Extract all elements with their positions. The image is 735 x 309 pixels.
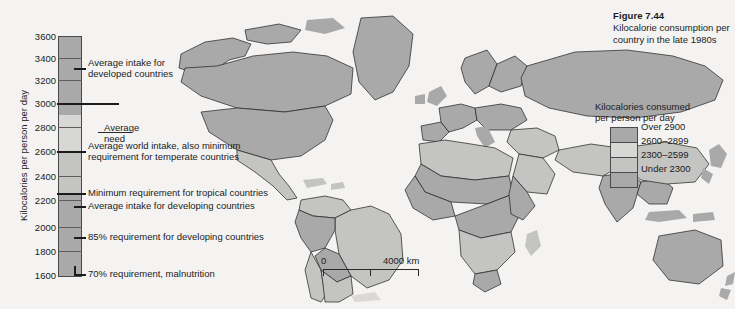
annotation-70-percent-requirement: 70% requirement, malnutrition <box>88 268 215 279</box>
leader-2200 <box>74 206 86 208</box>
legend-label-over-2900: Over 2900 <box>641 121 685 132</box>
average-need-label: Average need <box>104 123 139 144</box>
y-tick-2600: 2600 <box>22 146 56 157</box>
y-tick-2800: 2800 <box>22 122 56 133</box>
map-scale-tick-start <box>323 269 324 276</box>
y-tick-3600: 3600 <box>22 31 56 42</box>
annotation-average-intake-developed: Average intake for developed countries <box>88 57 173 79</box>
legend-swatch-2300-2599 <box>611 158 637 173</box>
y-tick-3000: 3000 <box>22 98 56 109</box>
gridline-2000 <box>58 227 82 228</box>
legend-swatch-under-2300 <box>611 173 637 187</box>
annotation-85-percent-requirement: 85% requirement for developing countries <box>88 231 264 242</box>
gridline-1800 <box>58 251 82 252</box>
legend-swatch-over-2900 <box>611 128 637 143</box>
y-tick-1600: 1600 <box>22 270 56 281</box>
y-tick-1800: 1800 <box>22 246 56 257</box>
y-tick-3400: 3400 <box>22 53 56 64</box>
figure-number: Figure 7.44 <box>613 10 735 22</box>
y-axis-ticks: 3600 3400 3200 3000 2800 2600 2400 2200 … <box>18 0 56 309</box>
gridline-2200 <box>58 200 82 201</box>
legend-swatch-2600-2899 <box>611 143 637 158</box>
legend-label-2300-2599: 2300–2599 <box>641 149 689 160</box>
gridline-3400 <box>58 58 82 59</box>
leader-3300 <box>74 68 86 70</box>
legend-label-2600-2899: 2600–2899 <box>641 135 689 146</box>
legend-title: Kilocalories consumed per person per day <box>595 101 730 123</box>
level-marker-2900 <box>57 103 119 105</box>
legend-swatches <box>610 127 638 188</box>
map-scale-start-label: 0 <box>321 255 326 266</box>
annotation-average-intake-developing: Average intake for developing countries <box>88 200 255 211</box>
figure-caption-text: Kilocalorie consumption per country in t… <box>613 22 735 45</box>
legend-label-under-2300: Under 2300 <box>641 163 691 174</box>
band-2300-2599 <box>59 153 81 194</box>
kilocalorie-scale-bar <box>58 36 82 277</box>
band-2600-2899 <box>59 115 81 153</box>
annotation-minimum-tropical: Minimum requirement for tropical countri… <box>88 187 268 198</box>
y-tick-2200: 2200 <box>22 195 56 206</box>
y-tick-2000: 2000 <box>22 222 56 233</box>
leader-2300 <box>74 193 86 195</box>
leader-1610 <box>74 274 86 276</box>
legend-title-line1: Kilocalories consumed <box>595 101 730 112</box>
map-distance-scale: 0 4000 km <box>323 255 435 281</box>
gridline-2400 <box>58 176 82 177</box>
map-scale-end-label: 4000 km <box>383 255 419 266</box>
map-legend: Kilocalories consumed per person per day… <box>595 101 730 188</box>
leader-1950 <box>74 237 86 239</box>
leader-2600 <box>74 151 86 153</box>
gridline-3200 <box>58 80 82 81</box>
figure-container: .c { stroke:#2a2a2a; stroke-width:.75; s… <box>0 0 735 309</box>
map-scale-tick-mid <box>370 269 371 276</box>
map-scale-tick-end <box>418 269 419 276</box>
leader-1610-riser <box>74 266 76 275</box>
y-tick-2400: 2400 <box>22 171 56 182</box>
figure-caption: Figure 7.44 Kilocalorie consumption per … <box>611 8 735 48</box>
y-tick-3200: 3200 <box>22 75 56 86</box>
gridline-2800 <box>58 127 82 128</box>
